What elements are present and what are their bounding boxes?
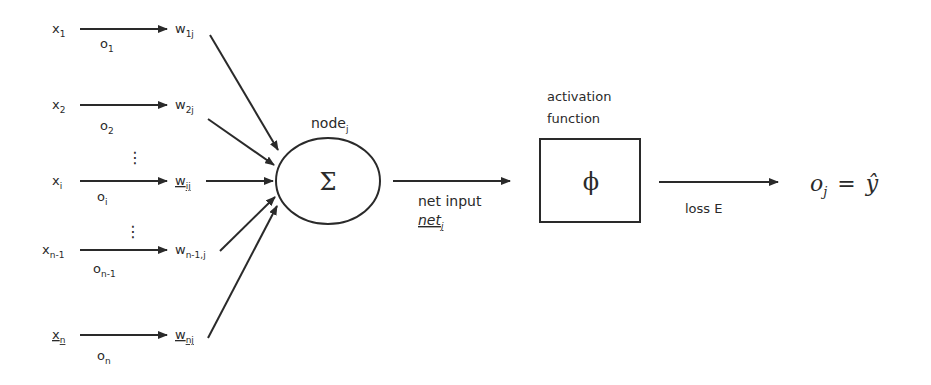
diagram-svg: x1 o1 w1j x2 o2 w2j ⋮ xi oi wij ⋮ xn-1 [0, 0, 931, 385]
output-on-label: on [97, 348, 111, 366]
weight-wnj-label: wnj [175, 327, 194, 345]
net-input-label: net input [418, 193, 482, 209]
input-row-i: xi oi wij [52, 173, 273, 207]
weight-arrow-n [208, 206, 277, 338]
input-row-1: x1 o1 w1j [52, 21, 278, 150]
net-var-label: netj [418, 212, 444, 231]
sigma-icon: Σ [320, 168, 337, 196]
weight-w1j-label: w1j [175, 21, 194, 39]
input-row-n: xn on wnj [52, 206, 277, 366]
input-x2-label: x2 [52, 97, 65, 115]
weight-w2j-label: w2j [175, 97, 194, 115]
weight-wij-label: wij [175, 173, 191, 191]
phi-icon: ϕ [583, 168, 599, 196]
ellipsis-1: ⋮ [127, 148, 143, 167]
activation-function: activation function ϕ [540, 89, 640, 222]
activation-title-line1: activation [547, 89, 611, 104]
activation-title-line2: function [547, 111, 600, 126]
input-xn-label: xn [52, 327, 65, 345]
input-row-n-1: xn-1 on-1 wn-1,j [42, 197, 275, 279]
summation-node: nodej Σ [276, 115, 380, 224]
output-oi-label: oi [97, 189, 107, 207]
ellipsis-2: ⋮ [125, 222, 141, 241]
input-xi-label: xi [52, 173, 62, 191]
output-o1-label: o1 [100, 36, 114, 54]
loss-label: loss E [685, 201, 722, 216]
input-row-2: x2 o2 w2j [52, 97, 274, 165]
output-o2-label: o2 [100, 118, 114, 136]
input-xn-1-label: xn-1 [42, 242, 64, 260]
weight-wn-1j-label: wn-1,j [175, 242, 206, 260]
perceptron-diagram: x1 o1 w1j x2 o2 w2j ⋮ xi oi wij ⋮ xn-1 [0, 0, 931, 385]
output-equation: oj=ŷ [810, 171, 879, 199]
node-label: nodej [311, 115, 348, 134]
weight-arrow-1 [210, 35, 278, 150]
input-x1-label: x1 [52, 21, 65, 39]
output-on-1-label: on-1 [93, 261, 116, 279]
